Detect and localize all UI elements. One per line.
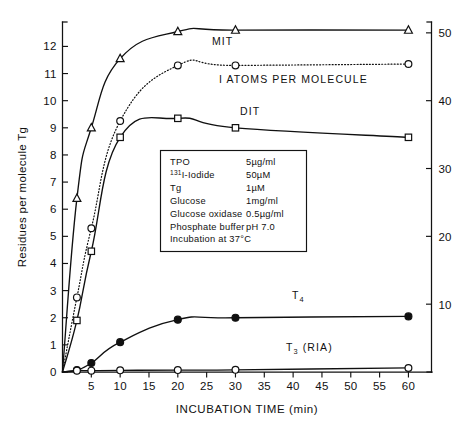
data-point-circle-filled [88, 360, 95, 367]
data-point-circle-filled [174, 316, 181, 323]
series-line [63, 316, 409, 372]
left-y-tick-label: 6 [50, 203, 57, 215]
series-label-t4: T4 [292, 289, 305, 304]
data-point-square [74, 317, 80, 323]
data-point-circle-filled [405, 313, 412, 320]
param-name: Incubation at 37°C [170, 234, 251, 244]
data-point-circle-open [174, 367, 181, 374]
left-y-tick-label: 12 [43, 40, 56, 52]
right-y-tick-group: 1020304050 [426, 27, 452, 310]
data-point-square [117, 134, 123, 140]
series-label-dit: DIT [240, 105, 260, 117]
data-point-square [405, 134, 411, 140]
right-y-tick-label: 20 [439, 231, 452, 243]
parameter-box: TPO5µg/ml131I-Iodide50µMTg1µMGlucose1mg/… [161, 151, 307, 252]
data-point-circle-open [88, 367, 95, 374]
left-y-tick-label: 4 [50, 257, 57, 269]
data-point-circle-open [232, 62, 239, 69]
x-tick-label: 35 [258, 380, 271, 392]
left-y-tick-label: 3 [50, 285, 57, 297]
data-point-circle-filled [232, 314, 239, 321]
param-value: 0.5µg/ml [246, 209, 284, 219]
data-point-circle-open [74, 294, 81, 301]
x-tick-label: 10 [114, 380, 127, 392]
data-point-circle-open [117, 367, 124, 374]
chart-figure: 0123456789101112 1020304050 510152025303… [0, 0, 469, 429]
data-point-square [232, 125, 238, 131]
left-y-tick-label: 10 [43, 95, 56, 107]
x-tick-label: 30 [229, 380, 242, 392]
series-label-t3: T3 (RIA) [286, 341, 333, 356]
left-y-tick-label: 0 [50, 366, 57, 378]
data-point-circle-filled [117, 339, 124, 346]
param-value: 50µM [246, 170, 270, 180]
x-tick-group: 51015202530354045505560 [88, 372, 415, 392]
left-y-tick-label: 7 [50, 176, 57, 188]
left-y-tick-group: 0123456789101112 [43, 40, 68, 378]
left-y-tick-label: 1 [50, 339, 57, 351]
left-y-tick-label: 5 [50, 230, 57, 242]
data-point-circle-open [232, 366, 239, 373]
x-axis-title: INCUBATION TIME (min) [176, 403, 319, 415]
param-value: 5µg/ml [246, 157, 276, 167]
data-point-square [175, 115, 181, 121]
param-name: TPO [170, 157, 190, 167]
x-tick-label: 5 [88, 380, 95, 392]
data-point-circle-open [74, 367, 81, 374]
param-value: 1µM [246, 183, 265, 193]
param-name: Glucose [170, 196, 206, 206]
x-tick-label: 45 [315, 380, 328, 392]
x-tick-label: 15 [142, 380, 155, 392]
data-point-circle-open [174, 62, 181, 69]
param-name: Glucose oxidase [170, 209, 242, 219]
data-point-square [88, 248, 94, 254]
left-y-tick-label: 2 [50, 312, 57, 324]
x-tick-label: 50 [344, 380, 357, 392]
param-name: Tg [170, 183, 181, 193]
data-point-circle-open [117, 118, 124, 125]
right-y-tick-label: 50 [439, 27, 452, 39]
y-axis-title: Residues per molecule Tg [16, 127, 28, 268]
chart-svg: 0123456789101112 1020304050 510152025303… [0, 0, 469, 429]
left-y-tick-label: 11 [44, 68, 56, 80]
series-label-mit: MIT [212, 35, 233, 47]
x-tick-label: 60 [402, 380, 415, 392]
series-t4 [63, 313, 412, 374]
param-name-text: I-Iodide [182, 170, 215, 180]
x-tick-label: 40 [287, 380, 300, 392]
right-y-tick-label: 40 [439, 95, 452, 107]
right-y-tick-label: 10 [439, 299, 452, 311]
left-y-tick-label: 9 [50, 122, 57, 134]
data-point-triangle [73, 194, 81, 201]
data-point-circle-open [88, 225, 95, 232]
param-name: Phosphate buffer [170, 222, 245, 232]
x-tick-label: 20 [171, 380, 184, 392]
right-y-tick-label: 30 [439, 163, 452, 175]
x-tick-label: 25 [200, 380, 213, 392]
left-y-tick-label: 8 [50, 149, 57, 161]
param-value: 1mg/ml [246, 196, 278, 206]
series-label-i-atoms: I ATOMS PER MOLECULE [219, 73, 368, 85]
param-superscript: 131 [170, 169, 182, 176]
data-point-circle-open [405, 365, 412, 372]
data-point-triangle [87, 124, 95, 131]
param-value: pH 7.0 [246, 222, 275, 232]
data-point-circle-open [405, 61, 412, 68]
x-tick-label: 55 [373, 380, 386, 392]
